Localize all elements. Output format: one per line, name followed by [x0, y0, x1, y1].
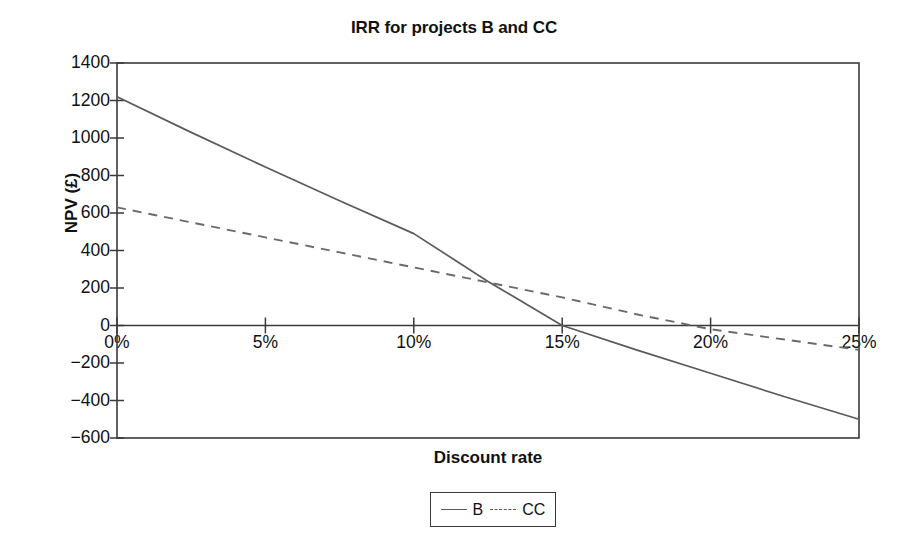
chart-legend: B CC: [430, 492, 556, 527]
chart-container: IRR for projects B and CC NPV (£) Discou…: [0, 0, 908, 557]
legend-swatch-solid-line-icon: [441, 509, 467, 510]
legend-item-b: B: [441, 502, 484, 518]
legend-item-cc: CC: [490, 502, 545, 518]
plot-frame: [117, 63, 859, 438]
series-line-b: [117, 97, 859, 420]
plot-area: [0, 0, 908, 557]
legend-label-b: B: [473, 502, 484, 518]
legend-label-cc: CC: [522, 502, 545, 518]
legend-swatch-dashed-line-icon: [490, 509, 516, 510]
series-line-cc: [117, 207, 859, 350]
